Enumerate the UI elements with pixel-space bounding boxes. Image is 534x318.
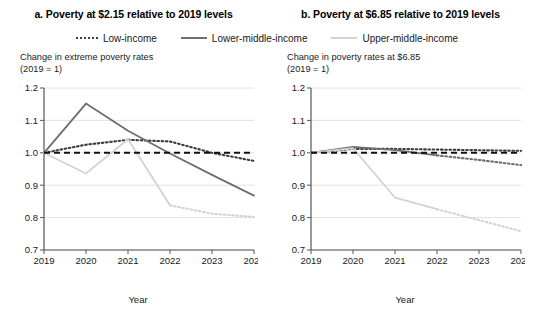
- figure-root: a. Poverty at $2.15 relative to 2019 lev…: [0, 0, 534, 318]
- series-projection-low-income: [128, 140, 254, 161]
- series-projection-upper-middle-income: [437, 209, 521, 231]
- panel-b-ylabel-line1: Change in poverty rates at $6.85: [287, 52, 420, 64]
- y-tick-label: 0.9: [292, 180, 305, 191]
- panel-b-svg: 1.21.11.00.90.80.72019202020212022202320…: [285, 82, 525, 272]
- legend-item-upper-middle-income: Upper-middle-income: [331, 33, 458, 44]
- legend-line-dotted-icon: [76, 37, 98, 39]
- legend-line-solid-icon: [181, 37, 207, 39]
- x-tick-label: 2019: [33, 255, 54, 266]
- panel-a-xlabel: Year: [18, 294, 258, 305]
- x-tick-label: 2023: [468, 255, 489, 266]
- panel-a-ylabel: Change in extreme poverty rates (2019 = …: [20, 52, 153, 75]
- panel-b-xlabel: Year: [285, 294, 525, 305]
- panel-a: Change in extreme poverty rates (2019 = …: [0, 52, 267, 318]
- y-tick-label: 0.8: [25, 212, 38, 223]
- x-tick-label: 2021: [384, 255, 405, 266]
- panel-a-ylabel-line2: (2019 = 1): [20, 64, 153, 76]
- y-tick-label: 1.0: [292, 147, 305, 158]
- y-tick-label: 1.2: [25, 82, 38, 93]
- x-tick-label: 2021: [117, 255, 138, 266]
- legend-line-solid-light-icon: [331, 37, 357, 39]
- series-line-upper-middle-income: [311, 148, 437, 209]
- y-tick-label: 1.1: [292, 115, 305, 126]
- y-tick-label: 1.0: [25, 147, 38, 158]
- legend-label-lower-middle-income: Lower-middle-income: [212, 33, 308, 44]
- y-tick-label: 0.8: [292, 212, 305, 223]
- panel-b-ylabel-line2: (2019 = 1): [287, 64, 420, 76]
- legend-label-upper-middle-income: Upper-middle-income: [362, 33, 458, 44]
- panel-b-plot: 1.21.11.00.90.80.72019202020212022202320…: [285, 82, 525, 272]
- x-tick-label: 2024: [510, 255, 525, 266]
- x-tick-label: 2019: [300, 255, 321, 266]
- x-tick-label: 2022: [426, 255, 447, 266]
- panel-a-title: a. Poverty at $2.15 relative to 2019 lev…: [0, 8, 267, 24]
- series-line-lower-middle-income: [44, 104, 254, 196]
- x-tick-label: 2020: [342, 255, 363, 266]
- x-tick-label: 2024: [243, 255, 258, 266]
- legend-item-lower-middle-income: Lower-middle-income: [181, 33, 308, 44]
- x-tick-label: 2023: [201, 255, 222, 266]
- panel-b: Change in poverty rates at $6.85 (2019 =…: [267, 52, 534, 318]
- series-line-low-income: [44, 140, 128, 153]
- x-tick-label: 2022: [159, 255, 180, 266]
- y-tick-label: 1.1: [25, 115, 38, 126]
- series-projection-upper-middle-income: [170, 205, 254, 217]
- chart-legend: Low-income Lower-middle-income Upper-mid…: [0, 30, 534, 46]
- legend-label-low-income: Low-income: [103, 33, 157, 44]
- y-tick-label: 1.2: [292, 82, 305, 93]
- y-tick-label: 0.7: [292, 244, 305, 255]
- series-projection-lower-middle-income: [437, 155, 521, 165]
- legend-item-low-income: Low-income: [76, 33, 157, 44]
- panel-a-svg: 1.21.11.00.90.80.72019202020212022202320…: [18, 82, 258, 272]
- panel-b-ylabel: Change in poverty rates at $6.85 (2019 =…: [287, 52, 420, 75]
- y-tick-label: 0.7: [25, 244, 38, 255]
- x-tick-label: 2020: [75, 255, 96, 266]
- y-tick-label: 0.9: [25, 180, 38, 191]
- panel-a-ylabel-line1: Change in extreme poverty rates: [20, 52, 153, 64]
- panel-a-plot: 1.21.11.00.90.80.72019202020212022202320…: [18, 82, 258, 272]
- panel-b-title: b. Poverty at $6.85 relative to 2019 lev…: [267, 8, 534, 24]
- panel-titles: a. Poverty at $2.15 relative to 2019 lev…: [0, 8, 534, 24]
